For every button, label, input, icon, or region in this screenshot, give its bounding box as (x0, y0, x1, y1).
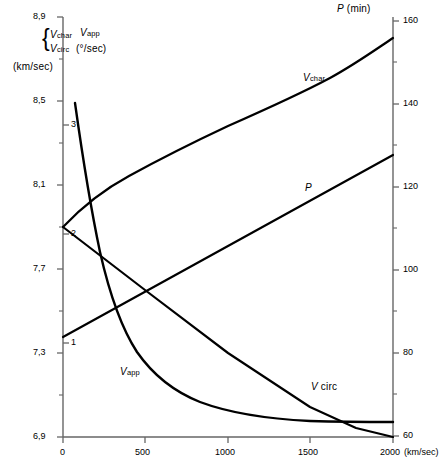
bottom-axis-unit: (km/sec) (404, 447, 439, 457)
figure: { Vchar Vcirc (km/sec) Vapp (°/sec) P (m… (0, 0, 445, 464)
curve-label-p: P (305, 183, 312, 194)
inner-axis-ticks (63, 125, 69, 343)
curve-label-v-char: Vchar (303, 73, 325, 84)
left-tick-6-9: 6,9 (33, 431, 46, 441)
left-axis-label-vcirc: Vcirc (50, 44, 69, 55)
right-axis-label: P (min) (337, 4, 371, 15)
inner-tick-2: 2 (71, 228, 76, 238)
inner-axis-label: Vapp (80, 28, 100, 39)
curve-v-char (63, 38, 393, 227)
curve-p (63, 155, 393, 337)
left-tick-8-9: 8,9 (33, 11, 46, 21)
left-tick-8-5: 8,5 (33, 95, 46, 105)
bottom-tick-1500: 1500 (298, 447, 318, 457)
left-tick-8-1: 8,1 (33, 179, 46, 189)
plot-svg (0, 0, 445, 464)
curve-v-circ (63, 227, 393, 437)
curve-label-v-app: Vapp (120, 367, 140, 378)
right-tick-80: 80 (403, 347, 413, 357)
right-tick-60: 60 (403, 430, 413, 440)
bottom-axis-major-ticks (63, 437, 393, 443)
bottom-tick-500: 500 (135, 447, 150, 457)
right-tick-160: 160 (403, 15, 418, 25)
right-tick-120: 120 (403, 181, 418, 191)
left-axis-label-vchar: Vchar (50, 30, 72, 41)
curve-label-v-circ: V circ (311, 382, 337, 393)
bottom-tick-1000: 1000 (215, 447, 235, 457)
inner-tick-3: 3 (71, 119, 76, 129)
inner-axis-unit: (°/sec) (76, 44, 106, 55)
bottom-tick-2000: 2000 (380, 447, 400, 457)
left-tick-7-3: 7,3 (33, 347, 46, 357)
right-tick-100: 100 (403, 264, 418, 274)
bottom-tick-0: 0 (60, 447, 65, 457)
left-axis-brace: { (42, 27, 50, 50)
left-axis-unit: (km/sec) (13, 62, 53, 73)
inner-tick-1: 1 (71, 337, 76, 347)
right-tick-140: 140 (403, 98, 418, 108)
left-tick-7-7: 7,7 (33, 263, 46, 273)
